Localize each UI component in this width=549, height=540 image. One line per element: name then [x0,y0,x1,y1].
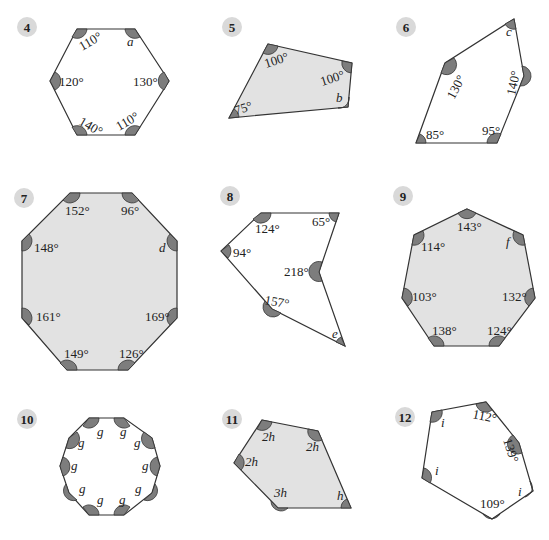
angle-label: 120° [59,74,84,89]
angle-label: 2h [262,429,275,444]
angle-label: 152° [65,203,90,218]
angle-label: 2h [306,439,319,454]
angle-label: 169° [145,309,170,324]
angle-label: 95° [482,123,500,138]
problem-number: 9 [400,189,407,204]
problem-number: 5 [229,20,236,35]
angle-label: 65° [312,214,330,229]
problem-7: 7 152° 96° 148° d 161° 169° 149° 126° [14,188,177,370]
problem-number: 10 [21,412,34,427]
angle-label: 124° [487,323,512,338]
angle-label: a [127,34,134,49]
problem-9: 9 143° 114° f 103° 132° 138° 124° [393,186,535,346]
angle-label: 130° [133,74,158,89]
angle-label: g [142,458,149,473]
angle-label: g [134,435,141,450]
angle-label: 138° [432,323,457,338]
angle-label: g [97,424,104,439]
angle-label: 85° [426,127,444,142]
angle-label: i [518,484,522,499]
problem-number: 7 [21,191,28,206]
angle-label: g [135,481,142,496]
angle-label: h [337,488,344,503]
problem-5: 5 100° 100° b 75° [222,17,352,118]
problem-8: 8 124° 65° 94° 218° 157° e [220,186,345,346]
problem-11: 11 2h 2h 2h 3h h [222,409,351,511]
angle-label: 94° [233,245,251,260]
angle-label: g [79,481,86,496]
problem-number: 4 [24,20,31,35]
angle-label: g [120,424,127,439]
problem-number: 8 [227,189,234,204]
angle-label: 2h [245,454,258,469]
angle-label: 149° [64,346,89,361]
concave-hexagon-shape [221,213,345,346]
angle-label: 109° [480,496,505,511]
angle-label: 132° [502,289,527,304]
angle-label: 3h [273,485,287,500]
angle-label: 218° [284,264,309,279]
angle-label: g [71,458,78,473]
angle-label: 161° [36,309,61,324]
angle-label: g [78,435,85,450]
angle-label: i [441,415,445,430]
angle-label: 126° [119,346,144,361]
angle-label: e [332,326,338,341]
angle-label: g [119,492,126,507]
problem-6: 6 c 130° 140° 85° 95° [396,17,531,143]
angle-label: 103° [412,289,437,304]
angle-label: 96° [121,203,139,218]
angle-label: b [336,90,343,105]
octagon-shape [22,193,177,370]
angle-label: 148° [34,240,59,255]
problem-number: 6 [403,20,410,35]
problem-number: 12 [399,410,412,425]
problem-number: 11 [226,412,238,427]
angle-marker [221,245,231,258]
angle-label: c [506,24,512,39]
angle-label: 124° [255,221,280,236]
problem-12: 12 i 112° 139° i i 109° [395,402,533,519]
angle-label: 143° [457,219,482,234]
angle-label: g [97,492,104,507]
problem-4: 4 110° a 120° 130° 140° 110° [17,17,169,139]
problem-10: 10 g g g g g g g g g g [17,409,160,515]
angle-label: i [435,463,439,478]
angle-label: 114° [421,239,445,254]
angle-label: d [159,240,166,255]
angle-marker [158,72,169,90]
